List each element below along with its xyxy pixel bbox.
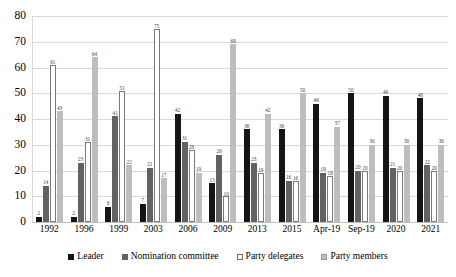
bar-wrapper: 30 (369, 16, 375, 222)
bar[interactable]: 30 (404, 145, 410, 222)
bar-wrapper: 69 (230, 16, 236, 222)
bar-value-label: 31 (182, 136, 187, 141)
bar[interactable]: 20 (431, 171, 437, 223)
bar-wrapper: 75 (154, 16, 160, 222)
bar-wrapper: 16 (293, 16, 299, 222)
bar-value-label: 16 (286, 175, 291, 180)
bar[interactable]: 36 (244, 129, 250, 222)
bar-wrapper: 20 (397, 16, 403, 222)
bar[interactable]: 64 (92, 57, 98, 222)
legend-item[interactable]: Party delegates (237, 252, 304, 262)
bar-wrapper: 20 (431, 16, 437, 222)
bar[interactable]: 19 (320, 173, 326, 222)
bar[interactable]: 2 (36, 217, 42, 222)
bar-value-label: 21 (390, 162, 395, 167)
bar[interactable]: 43 (57, 111, 63, 222)
bar[interactable]: 75 (154, 29, 160, 222)
bar[interactable]: 51 (119, 91, 125, 222)
legend-swatch-icon (321, 254, 327, 260)
bar[interactable]: 22 (424, 165, 430, 222)
bar[interactable]: 37 (334, 127, 340, 222)
bar-value-label: 19 (258, 168, 263, 173)
bar[interactable]: 36 (279, 129, 285, 222)
bar[interactable]: 42 (265, 114, 271, 222)
bar-wrapper: 51 (119, 16, 125, 222)
bar-wrapper: 61 (50, 16, 56, 222)
bar[interactable]: 23 (251, 163, 257, 222)
bar-wrapper: 19 (320, 16, 326, 222)
bar-value-label: 50 (348, 88, 353, 93)
bar-group: 7217517 (136, 16, 171, 222)
bar[interactable]: 15 (209, 183, 215, 222)
bar[interactable]: 20 (355, 171, 361, 223)
bar[interactable]: 18 (327, 176, 333, 222)
bar-value-label: 20 (397, 166, 402, 171)
bar[interactable]: 23 (78, 163, 84, 222)
bar-group: 6415122 (101, 16, 136, 222)
bar-wrapper: 6 (105, 16, 111, 222)
x-tick-label: 1992 (32, 225, 67, 235)
bar-value-label: 36 (244, 124, 249, 129)
bar[interactable]: 6 (105, 207, 111, 222)
bar[interactable]: 10 (223, 196, 229, 222)
x-tick-label: Sep-19 (344, 225, 379, 235)
x-tick-label: 1996 (67, 225, 102, 235)
bar[interactable]: 42 (175, 114, 181, 222)
bar-wrapper: 17 (161, 16, 167, 222)
bar[interactable]: 41 (112, 116, 118, 222)
bar-group: 49212030 (379, 16, 414, 222)
bar[interactable]: 7 (140, 204, 146, 222)
bar[interactable]: 14 (43, 186, 49, 222)
bar-wrapper: 14 (43, 16, 49, 222)
bar[interactable]: 26 (216, 155, 222, 222)
bar-value-label: 64 (92, 52, 97, 57)
bar[interactable]: 2 (71, 217, 77, 222)
bar[interactable]: 30 (438, 145, 444, 222)
legend-label: Leader (77, 252, 103, 262)
bar[interactable]: 16 (286, 181, 292, 222)
y-tick-label: 80 (15, 10, 27, 22)
legend-item[interactable]: Nomination committee (122, 252, 219, 262)
bar[interactable]: 30 (369, 145, 375, 222)
bar-wrapper: 31 (182, 16, 188, 222)
x-axis-tick-labels: 19921996199920032006200920132015Apr-19Se… (32, 225, 448, 235)
bar[interactable]: 31 (85, 142, 91, 222)
bar-value-label: 28 (189, 145, 194, 150)
bar-value-label: 23 (78, 157, 83, 162)
bar-value-label: 7 (142, 198, 145, 203)
bar[interactable]: 49 (383, 96, 389, 222)
bar-wrapper: 18 (327, 16, 333, 222)
legend-item[interactable]: Party members (321, 252, 387, 262)
bar[interactable]: 21 (390, 168, 396, 222)
bar[interactable]: 50 (300, 93, 306, 222)
bar[interactable]: 46 (313, 104, 319, 222)
bar-wrapper: 41 (112, 16, 118, 222)
bar[interactable]: 17 (161, 178, 167, 222)
bar-wrapper: 36 (279, 16, 285, 222)
bar-value-label: 18 (328, 171, 333, 176)
y-tick-label: 30 (15, 139, 27, 151)
bar[interactable]: 22 (126, 165, 132, 222)
bar[interactable]: 69 (230, 44, 236, 222)
bar[interactable]: 50 (348, 93, 354, 222)
bar-value-label: 46 (314, 98, 319, 103)
bar[interactable]: 19 (258, 173, 264, 222)
bar-wrapper: 48 (417, 16, 423, 222)
bar[interactable]: 20 (362, 171, 368, 223)
bar[interactable]: 61 (50, 65, 56, 222)
bar[interactable]: 20 (397, 171, 403, 223)
bar[interactable]: 19 (196, 173, 202, 222)
bar-value-label: 30 (369, 139, 374, 144)
bar[interactable]: 48 (417, 98, 423, 222)
bar-wrapper: 2 (71, 16, 77, 222)
bar-wrapper: 22 (424, 16, 430, 222)
legend-item[interactable]: Leader (68, 252, 103, 262)
bar[interactable]: 31 (182, 142, 188, 222)
x-tick-label: 2009 (205, 225, 240, 235)
bar[interactable]: 28 (189, 150, 195, 222)
bar[interactable]: 21 (147, 168, 153, 222)
bar-value-label: 48 (418, 93, 423, 98)
bar-wrapper: 50 (300, 16, 306, 222)
bar[interactable]: 16 (293, 181, 299, 222)
legend-label: Party members (330, 252, 387, 262)
